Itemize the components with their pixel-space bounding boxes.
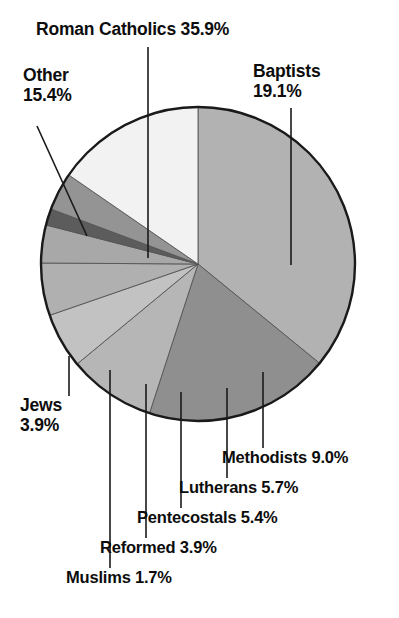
- slice-label-other: Other 15.4%: [23, 66, 72, 106]
- slice-label-baptists: Baptists 19.1%: [253, 62, 320, 102]
- slice-label-pentecostals-text: Pentecostals 5.4%: [137, 508, 278, 526]
- slice-label-reformed-text: Reformed 3.9%: [100, 538, 217, 556]
- slice-label-roman-catholics: Roman Catholics 35.9%: [36, 20, 229, 40]
- pie-slices: [41, 107, 355, 421]
- slice-label-methodists-text: Methodists 9.0%: [222, 448, 348, 466]
- slice-label-baptists-name: Baptists: [253, 62, 320, 82]
- slice-label-jews-name: Jews: [20, 396, 62, 416]
- slice-label-jews-pct: 3.9%: [20, 416, 62, 436]
- slice-label-jews: Jews 3.9%: [20, 396, 62, 436]
- slice-label-lutherans-text: Lutherans 5.7%: [179, 478, 298, 496]
- slice-label-pentecostals: Pentecostals 5.4%: [137, 508, 278, 526]
- pie-chart-figure: Roman Catholics 35.9% Other 15.4% Baptis…: [0, 0, 399, 618]
- slice-label-roman-catholics-text: Roman Catholics 35.9%: [36, 20, 229, 40]
- slice-label-reformed: Reformed 3.9%: [100, 538, 217, 556]
- slice-label-lutherans: Lutherans 5.7%: [179, 478, 298, 496]
- slice-label-muslims: Muslims 1.7%: [66, 568, 172, 586]
- slice-label-other-pct: 15.4%: [23, 86, 72, 106]
- slice-label-baptists-pct: 19.1%: [253, 82, 320, 102]
- slice-label-muslims-text: Muslims 1.7%: [66, 568, 172, 586]
- slice-label-other-name: Other: [23, 66, 72, 86]
- slice-label-methodists: Methodists 9.0%: [222, 448, 348, 466]
